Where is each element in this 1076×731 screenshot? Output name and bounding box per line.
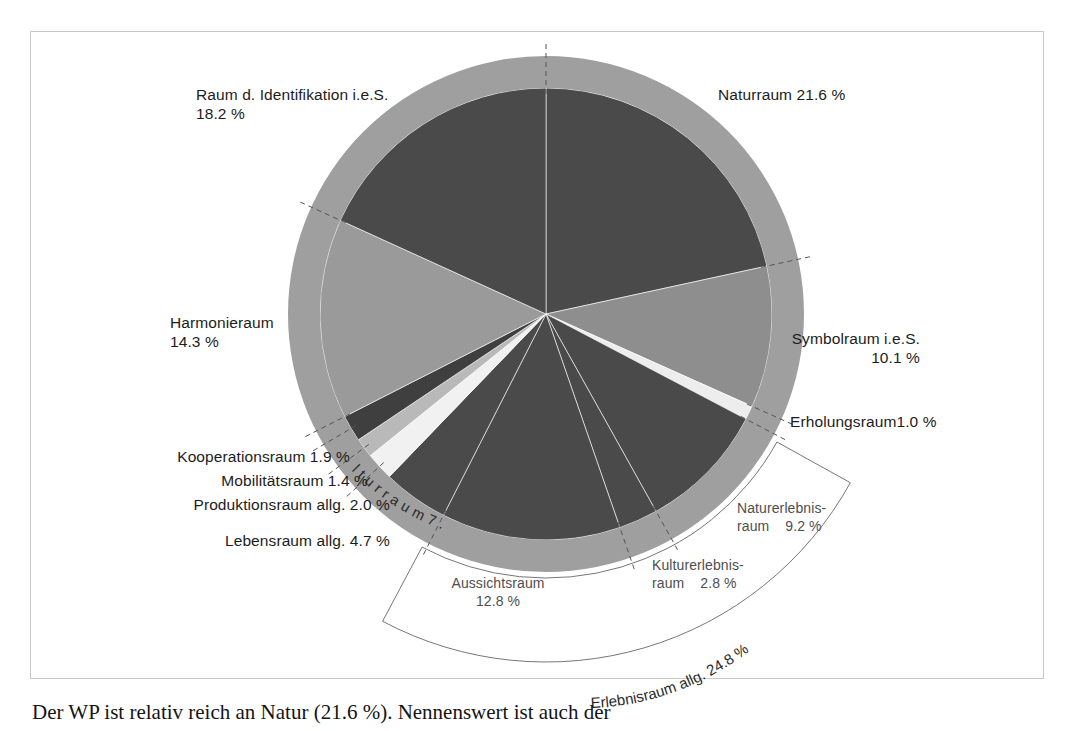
label-harmonieraum-line1: Harmonieraum — [170, 313, 274, 332]
body-paragraph: Der WP ist relativ reich an Natur (21.6 … — [32, 700, 1042, 731]
label-aussichtsraum-line2: 12.8 % — [418, 592, 578, 610]
label-naturraum: Naturraum 21.6 % — [718, 85, 845, 104]
label-symbolraum-line1: Symbolraum i.e.S. — [740, 329, 920, 348]
label-kulturerlebnisraum-line1: Kulturerlebnis- — [652, 556, 744, 574]
label-naturerlebnisraum-line1: Naturerlebnis- — [737, 499, 826, 517]
label-symbolraum-line2: 10.1 % — [740, 348, 920, 367]
label-harmonieraum-line2: 14.3 % — [170, 332, 219, 351]
label-identifikation-line1: Raum d. Identifikation i.e.S. — [196, 85, 388, 104]
label-mobilitaetsraum: Mobilitätsraum 1.4 % — [60, 471, 368, 490]
label-aussichtsraum-line1: Aussichtsraum — [418, 574, 578, 592]
label-naturerlebnisraum-line2: raum 9.2 % — [737, 517, 822, 535]
pie-slices — [320, 88, 772, 540]
label-lebensraum: Lebensraum allg. 4.7 % — [60, 531, 390, 550]
label-kulturerlebnisraum-line2: raum 2.8 % — [652, 574, 737, 592]
label-erholungsraum: Erholungsraum1.0 % — [790, 412, 937, 431]
label-produktionsraum: Produktionsraum allg. 2.0 % — [60, 495, 390, 514]
label-identifikation-line2: 18.2 % — [196, 104, 245, 123]
label-kooperationsraum: Kooperationsraum 1.9 % — [60, 447, 350, 466]
